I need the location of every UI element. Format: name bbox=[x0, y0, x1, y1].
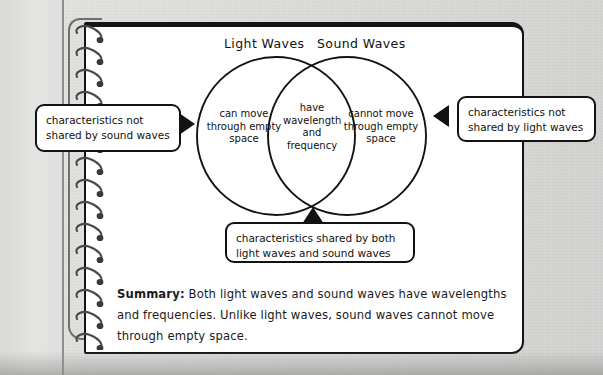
summary-label: Summary: bbox=[117, 287, 185, 301]
notebook-spine-line bbox=[62, 0, 64, 375]
page-gutter-shadow bbox=[0, 0, 64, 375]
summary-paragraph: Summary: Both light waves and sound wave… bbox=[117, 284, 509, 347]
venn-region-right-only-text: cannot move through empty space bbox=[340, 108, 422, 146]
venn-region-overlap-text: have wavelength and frequency bbox=[283, 102, 341, 152]
page-bottom-shadow bbox=[0, 351, 603, 375]
venn-region-left-only-text: can move through empty space bbox=[203, 108, 285, 146]
venn-title-light-waves: Light Waves bbox=[224, 36, 304, 51]
callout-right-pointer-icon bbox=[433, 105, 449, 127]
callout-left-pointer-icon bbox=[179, 113, 195, 135]
callout-right-only: characteristics not shared by light wave… bbox=[457, 96, 596, 142]
callout-shared: characteristics shared by both light wav… bbox=[225, 222, 415, 263]
notebook-scene: Light Waves Sound Waves can move through… bbox=[0, 0, 603, 375]
callout-left-only: characteristics not shared by sound wave… bbox=[35, 104, 181, 152]
venn-title-sound-waves: Sound Waves bbox=[317, 36, 406, 51]
